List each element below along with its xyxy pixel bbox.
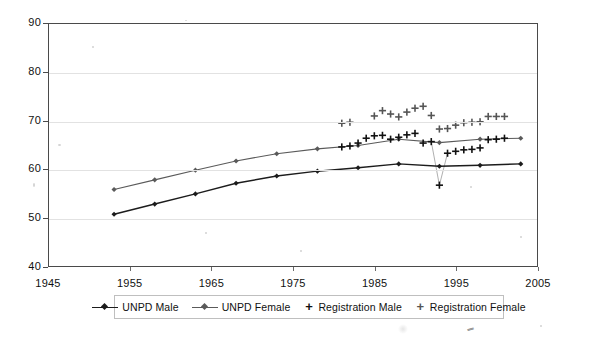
legend-label: Registration Female — [430, 301, 526, 313]
legend-item-registration-female: + Registration Female — [415, 301, 526, 313]
data-point-marker — [493, 113, 500, 120]
y-tick-mark — [43, 267, 48, 268]
data-point-marker — [387, 110, 394, 117]
data-point-marker — [379, 132, 386, 139]
scan-smudge — [398, 324, 408, 334]
x-tick-mark — [538, 267, 539, 271]
legend-item-unpd-female: UNPD Female — [192, 301, 291, 313]
x-tick-mark — [130, 267, 131, 271]
data-point-marker — [485, 136, 492, 143]
data-point-marker — [379, 107, 386, 114]
gridline — [49, 122, 537, 123]
data-point-marker — [371, 112, 378, 119]
data-point-marker — [411, 130, 418, 137]
x-tick-mark — [375, 267, 376, 271]
scan-speck — [33, 183, 35, 187]
data-point-marker — [396, 161, 401, 166]
x-tick-label: 1995 — [436, 278, 476, 289]
data-point-marker — [485, 113, 492, 120]
data-point-marker — [233, 158, 238, 163]
y-tick-mark — [43, 218, 48, 219]
data-point-marker — [363, 135, 370, 142]
data-point-marker — [437, 140, 442, 145]
legend-label: UNPD Female — [222, 301, 291, 313]
chart-figure: ‗ 405060708090 1945195519651975198519952… — [0, 0, 609, 337]
gridline — [49, 219, 537, 220]
scan-speck — [520, 236, 522, 238]
scan-speck — [300, 250, 302, 252]
data-point-marker — [452, 148, 459, 155]
scan-speck — [58, 144, 61, 146]
data-point-marker — [346, 142, 353, 149]
data-point-marker — [468, 146, 475, 153]
series-layer — [49, 24, 537, 266]
data-point-marker — [477, 163, 482, 168]
data-point-marker — [387, 136, 394, 143]
data-point-marker — [452, 122, 459, 129]
y-tick-label: 70 — [11, 115, 41, 126]
data-point-marker — [411, 105, 418, 112]
data-point-marker — [436, 125, 443, 132]
y-tick-label: 90 — [11, 17, 41, 28]
x-tick-label: 1985 — [355, 278, 395, 289]
data-point-marker — [428, 138, 435, 145]
data-point-marker — [460, 146, 467, 153]
data-point-marker — [518, 136, 523, 141]
data-point-marker — [111, 212, 116, 217]
x-tick-mark — [293, 267, 294, 271]
plot-area — [48, 23, 538, 267]
data-point-marker — [436, 182, 443, 189]
y-tick-label: 50 — [11, 212, 41, 223]
x-tick-mark — [211, 267, 212, 271]
data-point-marker — [460, 119, 467, 126]
data-point-marker — [371, 132, 378, 139]
plus-marker-icon: + — [415, 302, 426, 312]
x-tick-label: 1965 — [191, 278, 231, 289]
chart-legend: UNPD Male UNPD Female + Registration Mal… — [114, 295, 504, 319]
data-point-marker — [274, 151, 279, 156]
line-diamond-icon — [192, 303, 218, 312]
legend-label: Registration Male — [318, 301, 401, 313]
data-point-marker — [338, 143, 345, 150]
data-point-marker — [444, 125, 451, 132]
data-point-marker — [395, 113, 402, 120]
x-tick-mark — [456, 267, 457, 271]
data-point-marker — [476, 144, 483, 151]
line-diamond-icon — [92, 303, 118, 312]
y-tick-mark — [43, 121, 48, 122]
data-point-marker — [477, 137, 482, 142]
data-point-marker — [403, 109, 410, 116]
x-tick-label: 2005 — [518, 278, 558, 289]
data-point-marker — [444, 150, 451, 157]
data-point-marker — [428, 112, 435, 119]
data-point-marker — [501, 113, 508, 120]
data-point-marker — [274, 173, 279, 178]
data-point-marker — [518, 161, 523, 166]
y-tick-mark — [43, 169, 48, 170]
data-point-marker — [233, 181, 238, 186]
dip-connector — [431, 142, 447, 186]
y-tick-mark — [43, 72, 48, 73]
data-point-marker — [193, 191, 198, 196]
data-point-marker — [501, 135, 508, 142]
data-point-marker — [437, 164, 442, 169]
scan-speck — [92, 46, 94, 48]
x-tick-label: 1955 — [110, 278, 150, 289]
series-line — [114, 138, 521, 189]
legend-item-unpd-male: UNPD Male — [92, 301, 178, 313]
pen-mark: ‗ — [464, 317, 473, 330]
gridline — [49, 73, 537, 74]
gridline — [49, 170, 537, 171]
y-tick-label: 60 — [11, 163, 41, 174]
data-point-marker — [315, 146, 320, 151]
data-point-marker — [152, 201, 157, 206]
scan-speck — [205, 232, 207, 234]
y-tick-mark — [43, 23, 48, 24]
scan-speck — [470, 186, 472, 188]
legend-label: UNPD Male — [122, 301, 178, 313]
legend-item-registration-male: + Registration Male — [303, 301, 401, 313]
scan-speck — [185, 20, 187, 21]
x-tick-label: 1975 — [273, 278, 313, 289]
plus-marker-icon: + — [303, 302, 314, 312]
data-point-marker — [420, 103, 427, 110]
